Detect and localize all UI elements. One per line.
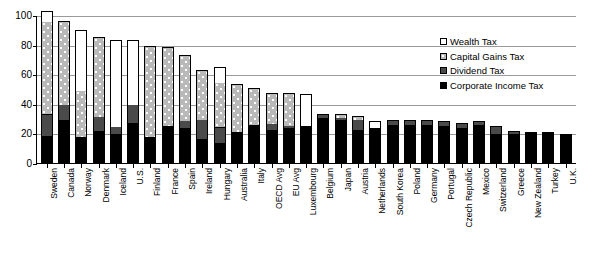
corporate-swatch <box>440 82 447 89</box>
bar-segment <box>94 117 104 133</box>
bar-segment <box>145 47 155 137</box>
bar-segment <box>336 121 346 163</box>
bar <box>110 40 122 164</box>
bar <box>162 47 174 164</box>
bar <box>41 11 53 164</box>
bar-segment <box>42 12 52 22</box>
bar-segment <box>370 128 380 163</box>
bar-column <box>367 16 384 164</box>
bar <box>300 94 312 164</box>
wealth-swatch <box>440 38 447 45</box>
bar-column <box>401 16 418 164</box>
bar-segment <box>94 38 104 116</box>
bar-segment <box>163 48 173 126</box>
category-label-text: Luxembourg <box>309 168 318 215</box>
x-axis-category-label: Finland <box>150 168 159 196</box>
x-axis-category-label: Czech Republic <box>462 168 471 228</box>
bar-column <box>124 16 141 164</box>
category-label-text: U.S. <box>136 168 145 185</box>
bar <box>283 93 295 164</box>
bar <box>560 134 572 164</box>
bar-column <box>159 16 176 164</box>
bar-column <box>194 16 211 164</box>
bar <box>144 46 156 164</box>
category-label-text: U.K. <box>569 168 578 185</box>
bar <box>387 120 399 164</box>
y-axis-tick-label: 20 <box>2 129 32 139</box>
x-axis-category-label: Turkey <box>548 168 557 194</box>
bar-column <box>315 16 332 164</box>
bar-segment <box>318 118 328 163</box>
legend-label: Corporate Income Tax <box>450 81 543 91</box>
category-label-text: EU Avg <box>292 168 301 196</box>
bar <box>214 67 226 164</box>
x-axis-category-label: Mexico <box>479 168 488 195</box>
bar-column <box>349 16 366 164</box>
bar-column <box>419 16 436 164</box>
legend-label: Dividend Tax <box>450 66 504 76</box>
bar <box>473 121 485 164</box>
bar-column <box>280 16 297 164</box>
bar-column <box>90 16 107 164</box>
bar-segment <box>42 22 52 115</box>
bar <box>490 126 502 165</box>
bar-segment <box>509 134 519 163</box>
x-axis-category-label: Belgium <box>323 168 332 199</box>
bar-segment <box>197 140 207 163</box>
bar <box>335 114 347 164</box>
category-label-text: Australia <box>240 168 249 201</box>
bar-segment <box>59 105 69 121</box>
x-axis-category-label: Australia <box>237 168 246 201</box>
x-axis-category-label: Ireland <box>202 168 211 194</box>
x-axis-category-label: Italy <box>254 168 263 184</box>
category-label-text: Canada <box>67 168 76 198</box>
x-axis-category-label: Norway <box>81 168 90 197</box>
bar-segment <box>76 31 86 92</box>
bar-column <box>246 16 263 164</box>
x-axis-category-label: Netherlands <box>375 168 384 214</box>
bar-column <box>557 16 574 164</box>
bar <box>456 123 468 164</box>
bar-segment <box>232 132 242 163</box>
bar-segment <box>197 120 207 140</box>
category-label-text: OECD Avg <box>275 168 284 209</box>
bar-segment <box>197 71 207 120</box>
bar-segment <box>232 85 242 132</box>
x-axis-category-label: Sweden <box>47 168 56 199</box>
bar-segment <box>284 94 294 125</box>
bar-segment <box>353 120 363 131</box>
bar <box>248 88 260 164</box>
bar-segment <box>526 133 536 163</box>
x-axis-category-label: U.K. <box>566 168 575 185</box>
bar-segment <box>76 138 86 163</box>
x-axis-category-label: U.S. <box>133 168 142 185</box>
category-label-text: Finland <box>153 168 162 196</box>
bar <box>58 21 70 164</box>
category-label-text: Germany <box>430 168 439 203</box>
bar-segment <box>543 133 553 163</box>
bar-segment <box>59 22 69 105</box>
category-label-text: Hungary <box>223 168 232 200</box>
bar-segment <box>491 134 501 163</box>
legend-label: Capital Gains Tax <box>450 52 524 62</box>
category-label-text: Sweden <box>50 168 59 199</box>
bar-segment <box>353 131 363 163</box>
x-axis-category-label: Spain <box>185 168 194 190</box>
category-label-text: Japan <box>344 168 353 191</box>
x-axis-category-label: Denmark <box>99 168 108 202</box>
x-axis-category-label: France <box>168 168 177 194</box>
bar-column <box>263 16 280 164</box>
x-axis-category-label: Iceland <box>116 168 125 195</box>
bar <box>508 131 520 164</box>
bar <box>421 120 433 164</box>
bar-segment <box>111 41 121 127</box>
bar <box>179 55 191 164</box>
bar-segment <box>284 129 294 163</box>
chart-legend: Wealth TaxCapital Gains TaxDividend TaxC… <box>440 37 543 95</box>
category-label-text: France <box>171 168 180 194</box>
category-label-text: Netherlands <box>378 168 387 214</box>
legend-item: Dividend Tax <box>440 66 543 76</box>
category-label-text: Italy <box>257 168 266 184</box>
x-axis-category-label: OECD Avg <box>272 168 281 209</box>
bar-column <box>211 16 228 164</box>
